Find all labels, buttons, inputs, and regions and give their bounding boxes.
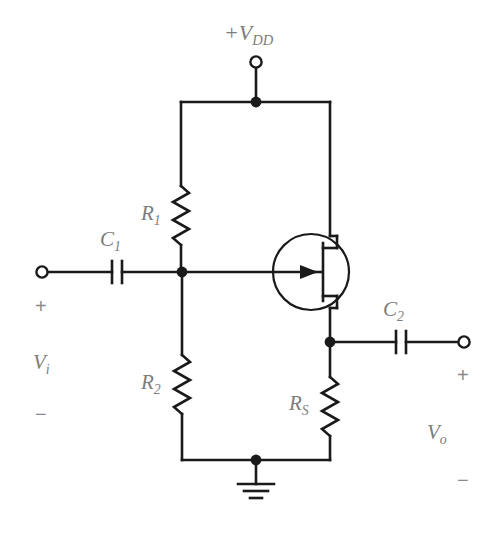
r1-subscript: 1 [154, 213, 161, 228]
supply-symbol: V [239, 20, 252, 45]
rs-label: RS [289, 393, 309, 418]
r2-symbol: R [141, 370, 154, 394]
output-plus-sign: + [457, 365, 469, 385]
supply-label: +VDD [224, 22, 273, 48]
supply-node [251, 97, 262, 108]
rs-symbol: R [289, 391, 302, 415]
supply-subscript: DD [252, 32, 273, 48]
r2-label: R2 [141, 372, 161, 397]
rs-subscript: S [302, 403, 309, 418]
vo-symbol: V [427, 420, 440, 444]
vi-subscript: i [46, 362, 50, 377]
input-minus-sign: − [35, 404, 47, 424]
r1-label: R1 [141, 203, 161, 228]
circuit-diagram [0, 0, 496, 541]
r2-subscript: 2 [154, 382, 161, 397]
output-minus-sign: − [457, 470, 469, 490]
output-terminal[interactable] [458, 336, 469, 347]
c1-label: C1 [100, 229, 121, 254]
vo-subscript: o [440, 432, 447, 447]
supply-terminal[interactable] [250, 56, 261, 67]
rs-resistor-body [322, 377, 338, 436]
output-voltage-label: Vo [427, 422, 447, 447]
schematic-canvas: +VDD C1 C2 R1 R2 RS Vi Vo + − + − [0, 0, 496, 541]
r1-resistor-body [173, 186, 189, 245]
c1-symbol: C [100, 227, 114, 251]
c2-symbol: C [383, 297, 397, 321]
input-voltage-label: Vi [33, 352, 50, 377]
r1-symbol: R [141, 201, 154, 225]
supply-plus-sign: + [224, 20, 239, 45]
c2-label: C2 [383, 299, 404, 324]
c1-subscript: 1 [114, 239, 121, 254]
input-terminal[interactable] [36, 266, 47, 277]
input-plus-sign: + [35, 296, 47, 316]
vi-symbol: V [33, 350, 46, 374]
r2-resistor-body [174, 355, 190, 414]
c2-subscript: 2 [397, 309, 404, 324]
